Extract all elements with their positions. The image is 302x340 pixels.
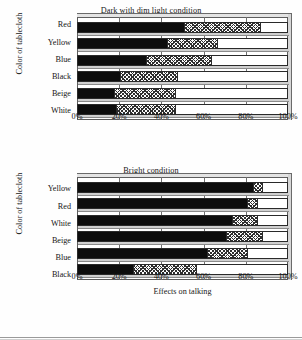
y-tick-label: Yellow xyxy=(26,39,74,47)
bar-shadow xyxy=(78,66,289,69)
figure-footer-rule xyxy=(0,337,302,338)
x-tick-label: 0% xyxy=(72,112,83,121)
bar-segment-solid-black xyxy=(77,248,208,259)
x-tick-label: 100% xyxy=(278,272,297,281)
bar-segment-open-white xyxy=(212,55,288,66)
y-tick-label: Red xyxy=(26,21,74,29)
x-tick-label: 100% xyxy=(278,112,297,121)
bar-shadow xyxy=(78,99,289,102)
plot-body-bottom: Color of tablecloth Yellow Red White Bei… xyxy=(0,177,302,280)
y-axis-label-bottom: Color of tablecloth xyxy=(15,158,24,250)
bar-row xyxy=(77,88,288,99)
bar-segment-open-white xyxy=(248,248,288,259)
bar-segment-open-white xyxy=(263,182,288,193)
chart-panel-bright: Bright condition Color of tablecloth Yel… xyxy=(0,166,302,280)
bar-segment-solid-black xyxy=(77,182,254,193)
y-tick-label: White xyxy=(26,220,74,228)
y-tick-labels-bottom: Yellow Red White Beige Blue Black xyxy=(26,177,74,280)
bar-segment-cross-hatch xyxy=(208,248,248,259)
y-tick-label: Blue xyxy=(26,56,74,64)
bars-bottom xyxy=(77,177,288,280)
x-tick-label: 0% xyxy=(72,272,83,281)
bar-shadow xyxy=(78,242,289,245)
bar-shadow xyxy=(78,82,289,85)
figure-canvas: Dark with dim light condition Color of t… xyxy=(0,0,302,340)
bar-row xyxy=(77,38,288,49)
bar-segment-solid-black xyxy=(77,231,227,242)
bar-segment-solid-black xyxy=(77,71,121,82)
bar-segment-open-white xyxy=(261,22,288,33)
bar-segment-solid-black xyxy=(77,55,147,66)
bar-shadow xyxy=(78,49,289,52)
bar-row xyxy=(77,71,288,82)
x-axis-label-bottom: Effects on talking xyxy=(77,287,288,296)
x-tick-labels-bottom: 0% 20% 40% 60% 80% 100% xyxy=(77,272,288,284)
x-tick-label: 80% xyxy=(238,112,253,121)
bar-segment-cross-hatch xyxy=(227,231,263,242)
bar-row xyxy=(77,55,288,66)
x-tick-label: 80% xyxy=(238,272,253,281)
bar-row xyxy=(77,22,288,33)
bar-segment-open-white xyxy=(263,231,288,242)
y-tick-label: White xyxy=(26,107,74,115)
y-tick-label: Red xyxy=(26,203,74,211)
x-tick-label: 20% xyxy=(112,272,127,281)
y-tick-label: Yellow xyxy=(26,185,74,193)
y-tick-label: Black xyxy=(26,73,74,81)
bar-segment-open-white xyxy=(178,71,288,82)
bar-row xyxy=(77,231,288,242)
bar-segment-solid-black xyxy=(77,198,248,209)
bar-segment-cross-hatch xyxy=(121,71,178,82)
plot-area-top xyxy=(77,17,288,120)
y-axis-label-top: Color of tablecloth xyxy=(15,0,24,90)
bar-row xyxy=(77,198,288,209)
bar-segment-open-white xyxy=(176,88,288,99)
bar-shadow xyxy=(78,259,289,262)
y-tick-label: Black xyxy=(26,271,74,279)
plot-body-top: Color of tablecloth Red Yellow Blue Blac… xyxy=(0,17,302,120)
bar-segment-cross-hatch xyxy=(185,22,261,33)
y-tick-label: Blue xyxy=(26,254,74,262)
y-tick-label: Beige xyxy=(26,237,74,245)
x-tick-label: 40% xyxy=(154,272,169,281)
bar-shadow xyxy=(78,226,289,229)
bars-top xyxy=(77,17,288,120)
bar-segment-solid-black xyxy=(77,22,185,33)
bar-segment-cross-hatch xyxy=(254,182,262,193)
bar-row xyxy=(77,182,288,193)
bar-segment-solid-black xyxy=(77,38,168,49)
x-tick-label: 40% xyxy=(154,112,169,121)
bar-shadow xyxy=(78,33,289,36)
y-tick-label: Beige xyxy=(26,90,74,98)
bar-segment-cross-hatch xyxy=(115,88,176,99)
plot-area-bottom xyxy=(77,177,288,280)
x-tick-label: 20% xyxy=(112,112,127,121)
bar-segment-open-white xyxy=(218,38,288,49)
x-tick-label: 60% xyxy=(196,272,211,281)
x-tick-labels-top: 0% 20% 40% 60% 80% 100% xyxy=(77,112,288,124)
x-tick-label: 60% xyxy=(196,112,211,121)
chart-panel-dark-dim-light: Dark with dim light condition Color of t… xyxy=(0,6,302,120)
bar-segment-cross-hatch xyxy=(233,215,258,226)
bar-row xyxy=(77,215,288,226)
bar-segment-open-white xyxy=(258,198,288,209)
bar-segment-cross-hatch xyxy=(147,55,212,66)
bar-segment-solid-black xyxy=(77,215,233,226)
y-tick-labels-top: Red Yellow Blue Black Beige White xyxy=(26,17,74,120)
bar-shadow xyxy=(78,193,289,196)
bar-shadow xyxy=(78,209,289,212)
bar-segment-cross-hatch xyxy=(248,198,259,209)
bar-row xyxy=(77,248,288,259)
bar-segment-open-white xyxy=(258,215,288,226)
bar-segment-solid-black xyxy=(77,88,115,99)
bar-segment-cross-hatch xyxy=(168,38,219,49)
